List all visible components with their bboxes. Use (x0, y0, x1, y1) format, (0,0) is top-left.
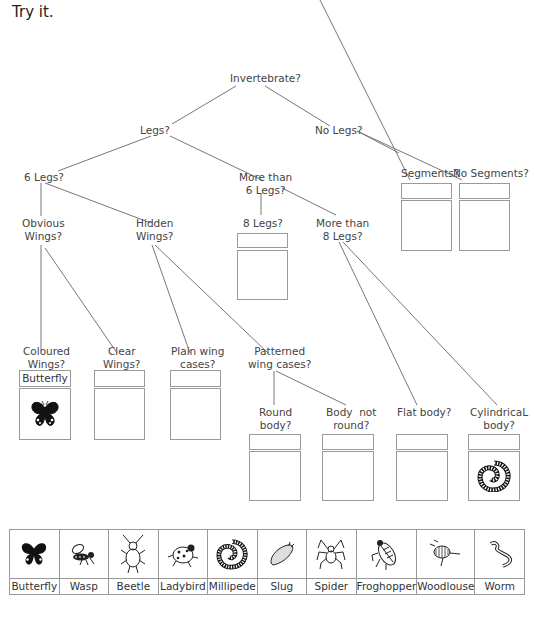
animal-card-froghopper[interactable]: Froghopper (357, 530, 418, 594)
butterfly-icon (30, 400, 60, 428)
answer-label-clear-wings[interactable] (94, 370, 145, 387)
node-no-segments: No Segments? (453, 167, 529, 180)
node-patterned-wing-cases: Patterned wing cases? (248, 345, 311, 371)
node-body-not-round: Body not round? (326, 406, 376, 432)
animal-card-beetle[interactable]: Beetle (109, 530, 159, 594)
answer-label-body-not-round[interactable] (322, 434, 374, 450)
slug-icon (268, 541, 296, 567)
answer-image-plain-wing-cases[interactable] (170, 388, 221, 440)
animal-card-woodlouse[interactable]: Woodlouse (417, 530, 475, 594)
animal-name: Beetle (109, 579, 158, 594)
animal-cards-strip: Butterfly Wasp Beetle (9, 529, 525, 595)
node-6-legs: 6 Legs? (24, 171, 64, 184)
node-no-legs: No Legs? (315, 124, 362, 137)
answer-label-8-legs[interactable] (237, 233, 288, 248)
answer-image-round-body[interactable] (249, 451, 301, 501)
animal-card-wasp[interactable]: Wasp (60, 530, 110, 594)
answer-image-coloured-wings[interactable] (19, 388, 71, 440)
node-segments: Segments? (401, 167, 459, 180)
answer-image-no-segments[interactable] (459, 200, 510, 251)
node-plain-wing-cases: Plain wing cases? (171, 345, 224, 371)
answer-image-clear-wings[interactable] (94, 388, 145, 440)
answer-image-cylindrical-body[interactable] (468, 451, 520, 501)
animal-name: Butterfly (10, 579, 59, 594)
animal-card-millipede[interactable]: Millipede (208, 530, 258, 594)
animal-card-slug[interactable]: Slug (258, 530, 308, 594)
answer-image-8-legs[interactable] (237, 250, 288, 300)
wasp-icon (68, 541, 100, 567)
millipede-icon (477, 460, 511, 492)
animal-name: Worm (475, 579, 524, 594)
animal-name: Slug (258, 579, 307, 594)
butterfly-icon (20, 541, 48, 567)
animal-name: Ladybird (159, 579, 208, 594)
answer-label-round-body[interactable] (249, 434, 301, 450)
answer-label-segments[interactable] (401, 183, 452, 199)
animal-name: Millipede (208, 579, 257, 594)
node-cylindrical-body: CylindricaL body? (470, 406, 528, 432)
millipede-icon (216, 538, 248, 570)
animal-name: Woodlouse (417, 579, 474, 594)
node-obvious-wings: Obvious Wings? (22, 217, 65, 243)
animal-name: Froghopper (357, 579, 417, 594)
node-flat-body: Flat body? (397, 406, 451, 419)
node-round-body: Round body? (259, 406, 292, 432)
answer-label-cylindrical-body[interactable] (468, 434, 520, 450)
answer-label-no-segments[interactable] (459, 183, 510, 199)
node-coloured-wings: Coloured Wings? (23, 345, 70, 371)
node-legs: Legs? (140, 124, 170, 137)
animal-card-worm[interactable]: Worm (475, 530, 524, 594)
answer-image-segments[interactable] (401, 200, 452, 251)
froghopper-icon (370, 537, 402, 571)
worm-icon (485, 539, 515, 569)
answer-label-flat-body[interactable] (396, 434, 448, 450)
animal-card-butterfly[interactable]: Butterfly (10, 530, 60, 594)
answer-label-coloured-wings[interactable]: Butterfly (19, 370, 71, 387)
animal-card-ladybird[interactable]: Ladybird (159, 530, 209, 594)
node-invertebrate: Invertebrate? (230, 72, 301, 85)
tree-connectors (0, 0, 534, 620)
answer-label-plain-wing-cases[interactable] (170, 370, 221, 387)
node-more-than-8-legs: More than 8 Legs? (316, 217, 369, 243)
woodlouse-icon (429, 539, 463, 569)
node-8-legs: 8 Legs? (243, 217, 283, 230)
animal-name: Wasp (60, 579, 109, 594)
answer-image-flat-body[interactable] (396, 451, 448, 501)
node-clear-wings: Clear Wings? (103, 345, 140, 371)
answer-image-body-not-round[interactable] (322, 451, 374, 501)
node-hidden-wings: Hidden Wings? (136, 217, 173, 243)
animal-card-spider[interactable]: Spider (307, 530, 357, 594)
animal-name: Spider (307, 579, 356, 594)
ladybird-icon (166, 539, 200, 569)
node-more-than-6-legs: More than 6 Legs? (239, 171, 292, 197)
beetle-icon (119, 534, 147, 574)
spider-icon (315, 538, 347, 570)
